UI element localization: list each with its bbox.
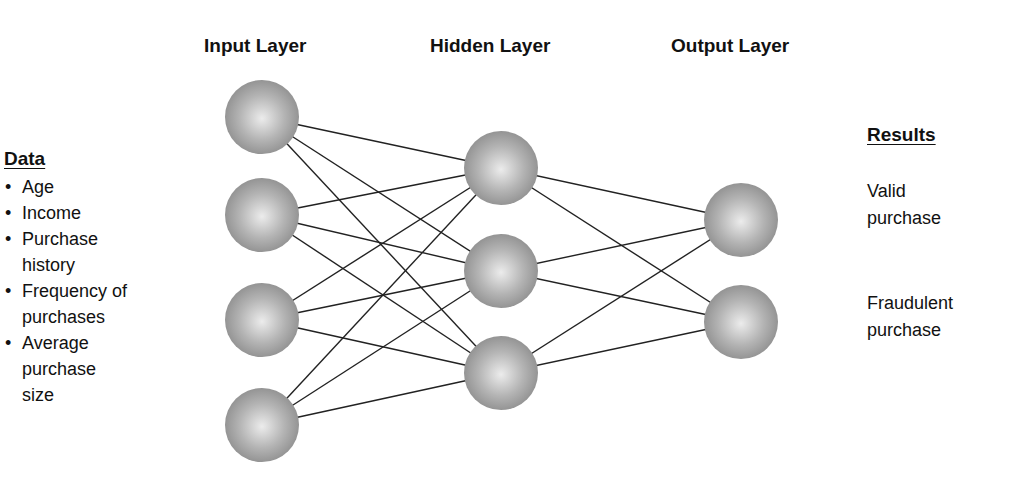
hidden-node-3: [464, 336, 538, 410]
output-node-1: [704, 183, 778, 257]
bullet-icon: •: [5, 200, 11, 226]
bullet-icon: •: [5, 278, 11, 304]
input-layer-title: Input Layer: [204, 35, 306, 57]
bullet-icon: •: [5, 330, 11, 356]
bullet-icon: •: [5, 174, 11, 200]
data-item-frequency: •Frequency of purchases: [4, 278, 162, 330]
data-item-age: •Age: [4, 174, 172, 200]
data-heading: Data: [4, 148, 45, 170]
data-item-average-size: •Average purchase size: [4, 330, 122, 408]
output-layer-title: Output Layer: [671, 35, 789, 57]
hidden-layer-title: Hidden Layer: [430, 35, 550, 57]
result-valid: Valid purchase: [867, 178, 947, 232]
data-item-purchase-history: •Purchase history: [4, 226, 132, 278]
results-heading: Results: [867, 124, 936, 146]
input-node-3: [225, 283, 299, 357]
connection-line: [262, 117, 501, 271]
bullet-icon: •: [5, 226, 11, 252]
nodes: [225, 80, 778, 462]
hidden-node-1: [464, 131, 538, 205]
connection-line: [501, 220, 741, 373]
input-node-1: [225, 80, 299, 154]
connection-line: [262, 117, 501, 373]
hidden-node-2: [464, 234, 538, 308]
result-fraudulent: Fraudulent purchase: [867, 290, 977, 344]
output-node-2: [704, 285, 778, 359]
data-list: •Age •Income •Purchase history •Frequenc…: [4, 174, 172, 408]
data-item-income: •Income: [4, 200, 172, 226]
input-node-4: [225, 388, 299, 462]
input-node-2: [225, 178, 299, 252]
